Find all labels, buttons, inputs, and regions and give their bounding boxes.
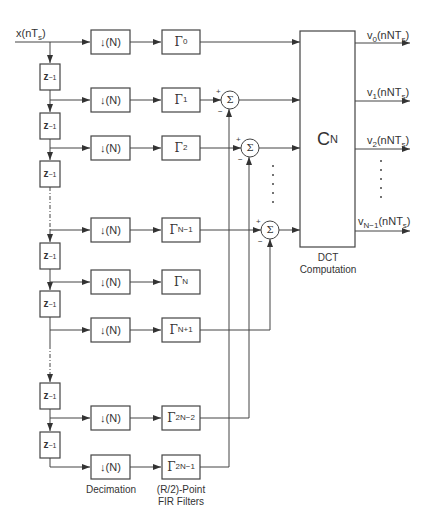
decimator-2n-2: ↓(N)	[91, 406, 130, 430]
delay-block-5: z−1	[40, 291, 60, 317]
delay-block-2: z−1	[40, 113, 60, 139]
fir-filters-caption: (R/2)-PointFIR Filters	[148, 484, 214, 508]
filter-gamma-1: Γ1	[162, 88, 200, 112]
sigma-icon: Σ	[226, 95, 233, 105]
output-v0-label: v0(nNTs)	[367, 30, 409, 44]
output-vn-1-label: vN−1(nNTs)	[358, 216, 411, 230]
decimator-n-1: ↓(N)	[91, 218, 130, 242]
diagram-wires	[0, 0, 440, 528]
sigma-icon: Σ	[246, 143, 253, 153]
decimation-caption: Decimation	[78, 484, 144, 496]
summer-2: Σ	[241, 139, 259, 157]
decimator-1: ↓(N)	[91, 88, 130, 112]
input-signal-label: x(nTs)	[16, 28, 46, 42]
decimator-2n-1: ↓(N)	[91, 455, 130, 479]
filter-gamma-0: Γ0	[162, 30, 200, 54]
summer-2-plus: +	[236, 136, 241, 144]
summer-n-1-minus: −	[258, 238, 263, 246]
decimator-2: ↓(N)	[91, 136, 130, 160]
delay-block-7: z−1	[40, 432, 60, 458]
summer-n-1: Σ	[261, 221, 279, 239]
output-v1-label: v1(nNTs)	[367, 87, 409, 101]
delay-block-1: z−1	[40, 64, 60, 90]
filter-gamma-n+1: ΓN+1	[162, 318, 200, 342]
output-v2-label: v2(nNTs)	[367, 135, 409, 149]
delay-block-4: z−1	[40, 243, 60, 269]
ellipsis-dots-middle	[272, 165, 274, 210]
decimator-n+1: ↓(N)	[91, 318, 130, 342]
summer-1-minus: −	[218, 108, 223, 116]
dct-caption: DCTComputation	[292, 252, 364, 276]
decimator-0: ↓(N)	[91, 30, 130, 54]
dct-block: CN	[300, 31, 355, 247]
filter-gamma-n: ΓN	[162, 270, 200, 294]
filter-gamma-2: Γ2	[162, 136, 200, 160]
filter-gamma-2n-2: Γ2N−2	[162, 406, 200, 430]
filter-gamma-2n-1: Γ2N−1	[162, 455, 200, 479]
delay-block-3: z−1	[40, 161, 60, 187]
sigma-icon: Σ	[266, 225, 273, 235]
delay-block-6: z−1	[40, 383, 60, 409]
filter-gamma-n-1: ΓN−1	[162, 218, 200, 242]
summer-1-plus: +	[216, 88, 221, 96]
summer-2-minus: −	[238, 156, 243, 164]
decimator-n: ↓(N)	[91, 270, 130, 294]
ellipsis-dots-outputs	[380, 160, 382, 205]
summer-1: Σ	[221, 91, 239, 109]
summer-n-1-plus: +	[256, 218, 261, 226]
